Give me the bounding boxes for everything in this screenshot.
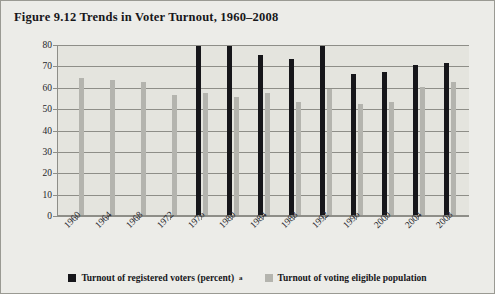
bar-group	[403, 45, 434, 215]
legend-item[interactable]: Turnout of registered voters (percent)a	[68, 273, 242, 283]
x-axis: 1960196419681972197619801984198819921996…	[57, 216, 469, 266]
bar-eligible-1988	[296, 102, 301, 215]
bar-group	[248, 45, 279, 215]
bar-registered-2008	[444, 63, 449, 215]
legend-footnote-marker: a	[239, 274, 243, 282]
y-tick-label-50: 50	[43, 104, 53, 114]
bar-eligible-1976	[203, 93, 208, 215]
bar-group	[310, 45, 341, 215]
chart-legend: Turnout of registered voters (percent)aT…	[1, 273, 494, 283]
figure-container: Figure 9.12 Trends in Voter Turnout, 196…	[0, 0, 495, 294]
bar-eligible-1964	[110, 80, 115, 215]
legend-item[interactable]: Turnout of voting eligible population	[265, 273, 427, 283]
bar-group	[62, 45, 93, 215]
bar-registered-1992	[320, 46, 325, 215]
y-tick-label-80: 80	[43, 40, 53, 50]
bar-group	[279, 45, 310, 215]
bar-eligible-1984	[265, 93, 270, 215]
legend-swatch-dark	[68, 274, 76, 282]
bar-group	[434, 45, 465, 215]
bar-group	[372, 45, 403, 215]
bar-group	[341, 45, 372, 215]
y-tick-label-30: 30	[43, 147, 53, 157]
bar-registered-1996	[351, 74, 356, 215]
plot-background: 01020304050607080	[57, 45, 469, 216]
bar-eligible-1980	[234, 97, 239, 215]
legend-label: Turnout of registered voters (percent)	[81, 273, 234, 283]
bar-registered-1988	[289, 59, 294, 215]
bar-registered-2000	[382, 72, 387, 215]
bar-eligible-1992	[327, 89, 332, 215]
y-tick-label-0: 0	[47, 211, 52, 221]
bar-group	[217, 45, 248, 215]
bar-eligible-2004	[420, 87, 425, 215]
bar-eligible-1960	[79, 78, 84, 215]
bar-group	[155, 45, 186, 215]
y-tick-label-70: 70	[43, 61, 53, 71]
bar-registered-1980	[227, 46, 232, 215]
bar-eligible-1972	[172, 95, 177, 215]
bar-group	[186, 45, 217, 215]
bar-group	[93, 45, 124, 215]
bar-eligible-2000	[389, 102, 394, 215]
legend-label: Turnout of voting eligible population	[278, 273, 427, 283]
bar-registered-1984	[258, 55, 263, 215]
bar-group	[124, 45, 155, 215]
y-tick-label-60: 60	[43, 83, 53, 93]
bar-eligible-1968	[141, 82, 146, 215]
bar-eligible-1996	[358, 104, 363, 215]
y-tick-label-10: 10	[43, 190, 53, 200]
chart-plot-area: 01020304050607080	[57, 45, 469, 216]
y-tick-label-40: 40	[43, 126, 53, 136]
figure-title: Figure 9.12 Trends in Voter Turnout, 196…	[14, 10, 278, 25]
bar-groups	[58, 45, 469, 215]
y-tick-label-20: 20	[43, 168, 53, 178]
bar-eligible-2008	[451, 82, 456, 215]
bar-registered-2004	[413, 65, 418, 215]
bar-registered-1976	[196, 46, 201, 215]
legend-swatch-light	[265, 274, 273, 282]
